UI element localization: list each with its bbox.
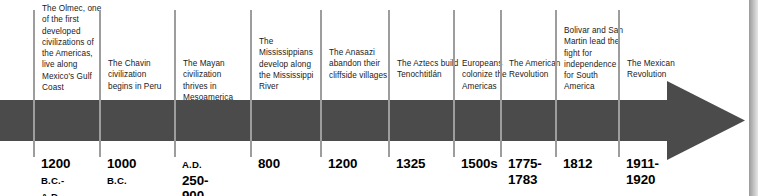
timeline-date-label: 1911-1920 — [626, 156, 659, 187]
date-number: 1200 — [41, 156, 70, 171]
timeline-date-label: 800 — [258, 156, 280, 172]
timeline-date-label: 1200 — [328, 156, 357, 172]
page-edge-strip — [749, 0, 758, 196]
date-era-second: A.D. — [41, 191, 61, 196]
date-number: 1325 — [396, 156, 425, 171]
timeline-event-caption: The Aztecs build Tenochtitlán — [397, 58, 460, 81]
date-number: 1500s — [461, 156, 498, 171]
timeline-date-label: 1500s — [461, 156, 498, 172]
timeline-event-caption: The Olmec, one of the first developed ci… — [42, 3, 105, 93]
timeline-event-caption: The American Revolution — [509, 58, 572, 81]
date-era: B.C.- — [41, 175, 64, 186]
timeline-event-caption: The Mexican Revolution — [627, 58, 690, 81]
date-number: 800 — [258, 156, 280, 171]
timeline-tick-mark — [388, 10, 390, 157]
timeline-date-label: A.D. 250-900 — [182, 156, 208, 196]
timeline-figure: The Olmec, one of the first developed ci… — [0, 0, 758, 196]
date-number: 1775- — [508, 156, 542, 171]
timeline-tick-mark — [500, 10, 502, 157]
timeline-tick-mark — [555, 10, 557, 157]
timeline-event-caption: The Mississippians develop along the Mis… — [259, 36, 322, 92]
timeline-tick-mark — [618, 10, 620, 157]
date-number: 250- — [182, 173, 208, 188]
date-number-second: 1920 — [626, 172, 655, 187]
timeline-date-label: 1812 — [563, 156, 592, 172]
timeline-date-label: 1775-1783 — [508, 156, 542, 187]
timeline-tick-mark — [33, 10, 35, 157]
timeline-tick-mark — [320, 10, 322, 157]
date-number: 1000 — [107, 156, 136, 171]
date-era: B.C. — [107, 175, 127, 186]
timeline-event-caption: The Chavin civilization begins in Peru — [108, 58, 171, 92]
timeline-date-label: 1325 — [396, 156, 425, 172]
timeline-tick-mark — [174, 10, 176, 157]
timeline-event-caption: The Mayan civilization thrives in Mesoam… — [183, 58, 246, 103]
date-number-second: 900 — [182, 188, 204, 196]
timeline-tick-mark — [453, 10, 455, 157]
date-number: 1200 — [328, 156, 357, 171]
timeline-event-caption: The Anasazi abandon their cliffside vill… — [329, 47, 392, 81]
timeline-tick-mark — [250, 10, 252, 157]
date-number: 1911- — [626, 156, 659, 171]
timeline-date-label: 1000 B.C. — [107, 156, 136, 188]
timeline-date-label: 1200 B.C.-A.D. 400 — [41, 156, 70, 196]
date-number-second: 1783 — [508, 172, 537, 187]
date-era: A.D. — [182, 159, 202, 170]
timeline-tick-mark — [99, 10, 101, 157]
timeline-arrow-head-icon — [667, 81, 747, 160]
date-number: 1812 — [563, 156, 592, 171]
